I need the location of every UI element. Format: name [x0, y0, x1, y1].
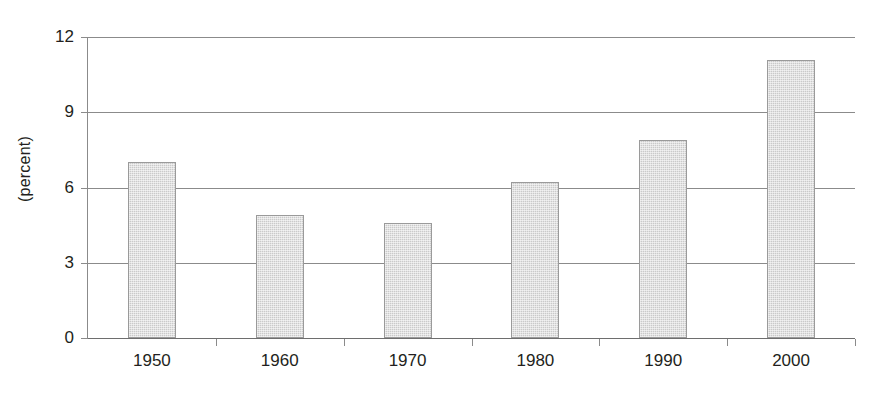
bar [128, 162, 176, 338]
bar [511, 182, 559, 338]
y-axis-title: (percent) [10, 0, 40, 338]
y-tick-label: 9 [34, 103, 74, 120]
y-tick-mark [81, 338, 88, 339]
x-tick-mark [472, 339, 473, 346]
y-tick-mark [81, 263, 88, 264]
y-tick-label: 3 [34, 254, 74, 271]
y-tick-mark [81, 188, 88, 189]
gridline [88, 112, 855, 113]
x-tick-mark [344, 339, 345, 346]
x-tick-label: 1960 [235, 352, 325, 369]
x-tick-label: 1980 [490, 352, 580, 369]
gridline [88, 263, 855, 264]
x-tick-label: 1990 [618, 352, 708, 369]
x-tick-mark [216, 339, 217, 346]
y-tick-label: 0 [34, 329, 74, 346]
x-tick-mark [855, 339, 856, 346]
plot-area [88, 37, 855, 338]
y-axis-title-text: (percent) [16, 136, 34, 202]
y-tick-mark [81, 37, 88, 38]
x-tick-label: 2000 [746, 352, 836, 369]
bar [767, 60, 815, 338]
y-tick-label: 6 [34, 179, 74, 196]
gridline [88, 37, 855, 38]
bar-chart: (percent) 036912 19501960197019801990200… [0, 0, 871, 402]
y-tick-label: 12 [34, 28, 74, 45]
x-tick-mark [727, 339, 728, 346]
x-tick-label: 1950 [107, 352, 197, 369]
bar [639, 140, 687, 338]
x-tick-label: 1970 [363, 352, 453, 369]
gridline [88, 188, 855, 189]
x-tick-mark [599, 339, 600, 346]
y-tick-mark [81, 112, 88, 113]
bar [384, 223, 432, 338]
bar [256, 215, 304, 338]
